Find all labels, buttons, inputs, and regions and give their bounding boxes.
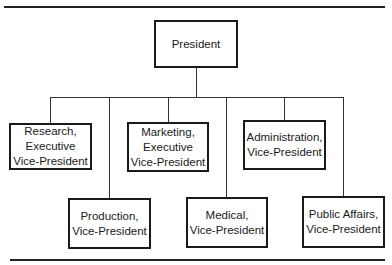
connector-marketing (168, 97, 169, 122)
public-affairs-label: Public Affairs, Vice-President (306, 207, 381, 237)
top-rule (4, 6, 385, 8)
connector-production (109, 97, 110, 198)
president-box: President (154, 20, 238, 68)
administration-box: Administration, Vice-President (243, 120, 326, 170)
research-label: Research, Executive Vice-President (13, 124, 88, 169)
president-connector (196, 68, 197, 98)
connector-public-affairs (343, 97, 344, 196)
production-label: Production, Vice-President (72, 209, 147, 239)
marketing-box: Marketing, Executive Vice-President (127, 122, 209, 172)
medical-label: Medical, Vice-President (190, 208, 265, 238)
production-box: Production, Vice-President (68, 198, 151, 249)
horizontal-bus (50, 97, 344, 98)
connector-administration (284, 97, 285, 120)
research-box: Research, Executive Vice-President (9, 123, 92, 170)
connector-medical (226, 97, 227, 197)
connector-research (50, 97, 51, 123)
public-affairs-box: Public Affairs, Vice-President (302, 196, 385, 248)
bottom-rule (10, 259, 385, 261)
marketing-label: Marketing, Executive Vice-President (131, 125, 206, 170)
president-label: President (172, 37, 221, 52)
administration-label: Administration, Vice-President (246, 130, 322, 160)
medical-box: Medical, Vice-President (186, 197, 268, 248)
